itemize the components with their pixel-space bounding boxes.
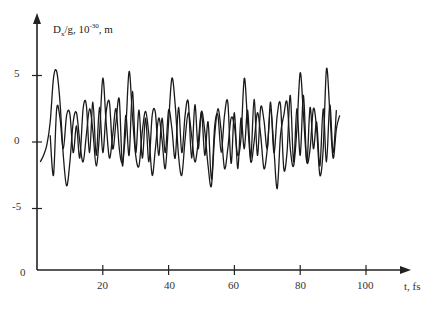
x-tick-label-80: 80 [295,279,306,291]
y-label-mid: /g, 10 [64,23,89,35]
x-tick-label-60: 60 [228,279,239,291]
x-tick-label-20: 20 [97,279,108,291]
data-series [40,68,339,189]
y-label-main: D [53,23,61,35]
x-tick-label-100: 100 [357,279,374,291]
y-label-tail: , m [99,23,113,35]
x-tick-label-40: 40 [164,279,175,291]
x-axis-label: t, fs [404,280,421,292]
chart-canvas [0,0,440,309]
y-label-sup: -30 [90,22,99,30]
x-axis-arrow-icon [400,266,411,274]
y-axis-label: Dx/g, 10-30, m [53,22,113,38]
y-tick-label-0: 0 [14,134,20,146]
y-axis-arrow-icon [33,13,41,24]
y-origin-label: 0 [20,266,26,278]
y-tick-label-minus5: -5 [12,200,21,212]
y-tick-label-5: 5 [14,67,20,79]
